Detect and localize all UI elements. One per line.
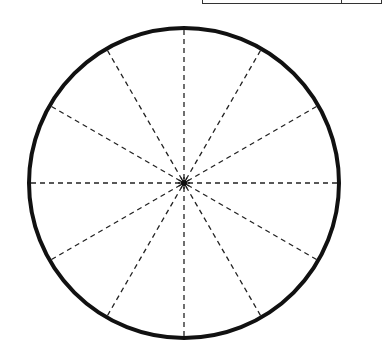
spoke-line (51, 107, 180, 182)
spoke-line (186, 186, 261, 315)
spoke-line (51, 185, 180, 260)
spoke-line (187, 185, 316, 260)
spoke-line (187, 107, 316, 182)
spoke-line (108, 186, 183, 315)
spoke-line (108, 50, 183, 179)
spoke-line (186, 50, 261, 179)
